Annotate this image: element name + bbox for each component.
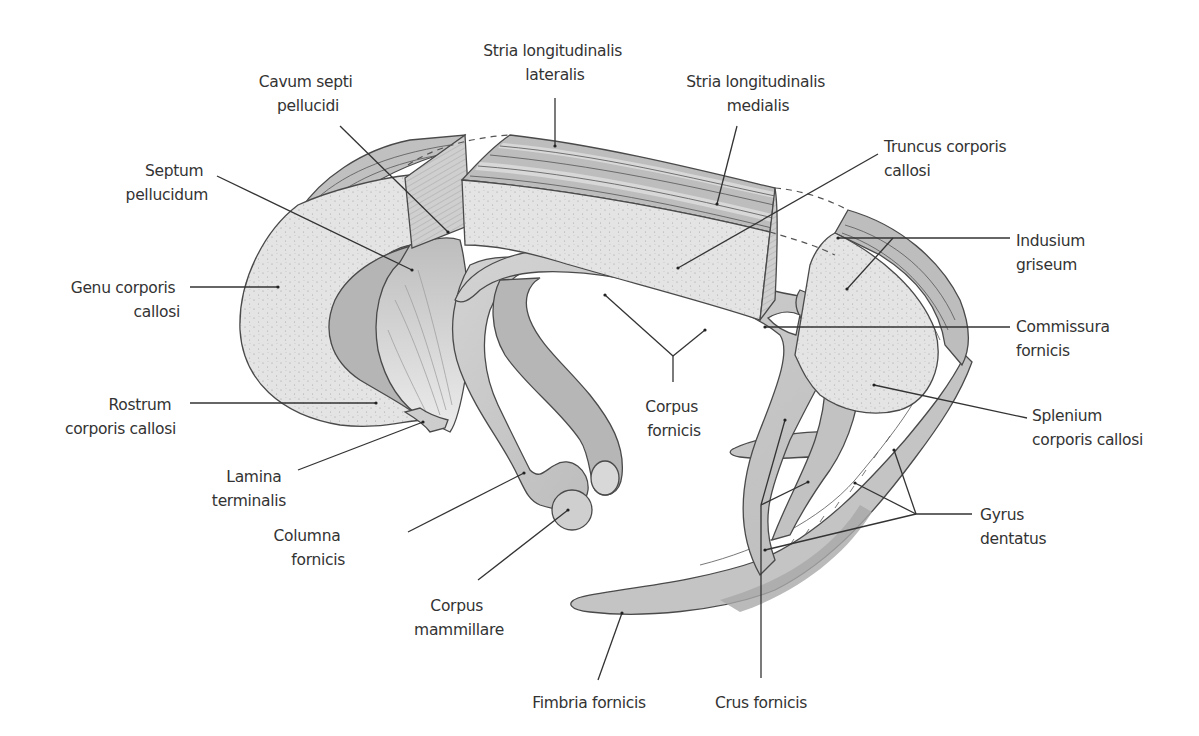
label-genu-corporis-callosi: Genu corporis callosi bbox=[71, 279, 180, 321]
label-cavum-septi-pellucidi: Cavum septi pellucidi bbox=[259, 73, 358, 115]
label-columna-fornicis: Columna fornicis bbox=[274, 527, 346, 569]
label-fimbria-fornicis: Fimbria fornicis bbox=[532, 694, 646, 712]
label-stria-medialis: Stria longitudinalis medialis bbox=[686, 73, 829, 115]
label-crus-fornicis: Crus fornicis bbox=[715, 694, 807, 712]
label-lamina-terminalis: Lamina terminalis bbox=[212, 468, 286, 510]
label-gyrus-dentatus: Gyrus dentatus bbox=[980, 506, 1047, 548]
label-corpus-mammillare: Corpus mammillare bbox=[414, 597, 504, 639]
label-indusium-griseum: Indusium griseum bbox=[1016, 232, 1090, 274]
label-splenium-corporis-callosi: Splenium corporis callosi bbox=[1032, 407, 1143, 449]
corpus-mammillare-body bbox=[552, 490, 592, 530]
splenium-structure bbox=[795, 210, 969, 413]
anatomy-diagram: Stria longitudinalis lateralis Cavum sep… bbox=[0, 0, 1199, 736]
label-rostrum-corporis-callosi: Rostrum corporis callosi bbox=[65, 396, 176, 438]
label-septum-pellucidum: Septum pellucidum bbox=[126, 162, 208, 204]
label-corpus-fornicis: Corpus fornicis bbox=[645, 398, 702, 440]
label-truncus-corporis-callosi: Truncus corporis callosi bbox=[883, 138, 1011, 180]
label-commissura-fornicis: Commissura fornicis bbox=[1016, 318, 1114, 360]
label-stria-lateralis: Stria longitudinalis lateralis bbox=[483, 42, 626, 84]
columna-fornicis-structure bbox=[453, 257, 623, 530]
